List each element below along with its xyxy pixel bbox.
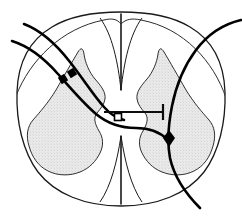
synapse-central-marker (115, 114, 122, 121)
spinal-cord-diagram-svg (0, 0, 242, 219)
spinal-cord-figure: Spinal cord cross-section with nerve fib… (0, 0, 242, 219)
